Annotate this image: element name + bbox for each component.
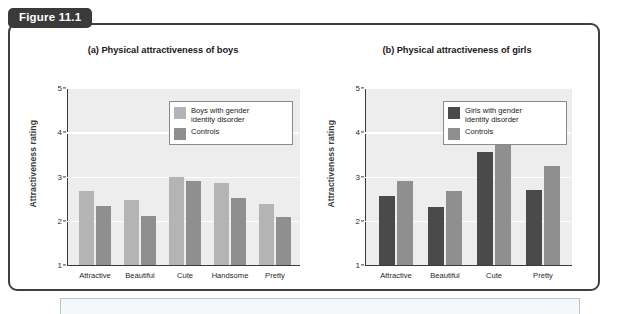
- chart-title-girls: (b) Physical attractiveness of girls: [316, 45, 598, 55]
- y-axis-tick-label: 4: [46, 128, 62, 137]
- x-axis-tick-label: Cute: [486, 271, 502, 280]
- legend-label: Controls: [191, 127, 219, 136]
- bar: [526, 190, 542, 265]
- y-axis-tick-label: 1: [46, 261, 62, 270]
- y-axis-tick-label: 5: [46, 84, 62, 93]
- y-axis-tick-mark: [361, 264, 364, 265]
- bar: [231, 198, 246, 265]
- bar: [79, 191, 94, 265]
- legend-item: Girls with gender identity disorder: [448, 106, 560, 124]
- x-axis-tick-label: Beautiful: [430, 271, 460, 280]
- figure-number-tag: Figure 11.1: [8, 8, 92, 28]
- chart-legend: Girls with gender identity disorderContr…: [443, 101, 567, 145]
- chart-panel-girls: (b) Physical attractiveness of girls Att…: [316, 25, 598, 289]
- x-axis-tick-label: Beautiful: [125, 271, 155, 280]
- gridline: [365, 88, 571, 89]
- figure-bottom-rule: [60, 298, 580, 314]
- legend-swatch-icon: [448, 107, 460, 119]
- y-axis-tick-label: 2: [344, 216, 360, 225]
- gridline: [365, 177, 571, 178]
- plot-area-girls: 12345AttractiveBeautifulCutePrettyGirls …: [365, 88, 571, 265]
- bar: [124, 200, 139, 265]
- chart-legend: Boys with gender identity disorderContro…: [169, 101, 293, 145]
- charts-container: (a) Physical attractiveness of boys Attr…: [10, 25, 598, 289]
- x-axis-tick-label: Attractive: [380, 271, 412, 280]
- figure-root: Figure 11.1 (a) Physical attractiveness …: [0, 0, 618, 314]
- bar: [477, 152, 493, 265]
- bar: [379, 196, 395, 265]
- legend-swatch-icon: [174, 128, 186, 140]
- legend-label: Boys with gender identity disorder: [191, 106, 249, 124]
- legend-label: Controls: [465, 127, 493, 136]
- legend-item: Controls: [174, 127, 286, 140]
- bar: [397, 181, 413, 265]
- bar: [96, 206, 111, 265]
- legend-swatch-icon: [174, 107, 186, 119]
- bar: [428, 207, 444, 265]
- bar: [141, 216, 156, 265]
- bar: [446, 191, 462, 265]
- y-axis-tick-label: 5: [344, 84, 360, 93]
- x-axis-tick-label: Attractive: [79, 271, 111, 280]
- x-axis-tick-label: Handsome: [212, 271, 249, 280]
- chart-panel-boys: (a) Physical attractiveness of boys Attr…: [10, 25, 316, 289]
- y-axis-label-boys: Attractiveness rating: [28, 120, 38, 208]
- y-axis-label-girls: Attractiveness rating: [326, 120, 336, 208]
- legend-label: Girls with gender identity disorder: [465, 106, 522, 124]
- x-axis-tick-label: Pretty: [265, 271, 285, 280]
- chart-title-boys: (a) Physical attractiveness of boys: [10, 45, 316, 55]
- x-axis-tick-label: Cute: [177, 271, 193, 280]
- y-axis-tick-mark: [361, 87, 364, 88]
- legend-swatch-icon: [448, 128, 460, 140]
- y-axis-tick-label: 4: [344, 128, 360, 137]
- y-axis-tick-mark: [63, 132, 66, 133]
- bar: [544, 166, 560, 265]
- plot-area-boys: 12345AttractiveBeautifulCuteHandsomePret…: [67, 88, 299, 265]
- bar: [186, 181, 201, 265]
- bar: [495, 145, 511, 265]
- bar: [169, 177, 184, 266]
- y-axis-tick-label: 3: [344, 172, 360, 181]
- y-axis-tick-mark: [63, 87, 66, 88]
- gridline: [67, 88, 299, 89]
- x-axis-tick-label: Pretty: [533, 271, 553, 280]
- bar: [214, 183, 229, 265]
- y-axis-tick-mark: [361, 176, 364, 177]
- y-axis-tick-mark: [63, 176, 66, 177]
- y-axis-tick-mark: [361, 220, 364, 221]
- bar: [259, 204, 274, 265]
- y-axis-tick-label: 3: [46, 172, 62, 181]
- y-axis-tick-mark: [63, 264, 66, 265]
- y-axis-tick-mark: [361, 132, 364, 133]
- legend-item: Boys with gender identity disorder: [174, 106, 286, 124]
- bar: [276, 217, 291, 265]
- y-axis-tick-label: 2: [46, 216, 62, 225]
- y-axis-tick-mark: [63, 220, 66, 221]
- y-axis-tick-label: 1: [344, 261, 360, 270]
- legend-item: Controls: [448, 127, 560, 140]
